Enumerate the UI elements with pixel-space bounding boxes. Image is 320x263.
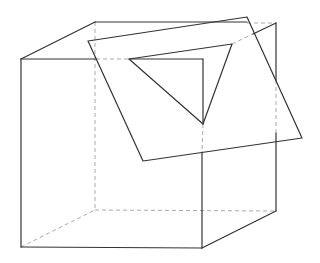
top-left-depth-edge	[21, 22, 95, 59]
hidden-front-right-segment	[202, 124, 203, 152]
triangle-cross-section	[129, 44, 232, 124]
cube-plane-diagram	[0, 0, 320, 263]
diagram-canvas	[0, 0, 320, 263]
hidden-back-bottom-edge	[95, 210, 276, 211]
cutting-plane	[88, 17, 302, 161]
hidden-bottom-left-depth-edge	[21, 210, 95, 247]
bottom-right-depth-edge	[202, 211, 276, 248]
hidden-top-right-depth-segment	[232, 34, 253, 44]
top-right-depth-edge	[253, 23, 276, 34]
front-bottom-edge	[21, 247, 202, 248]
